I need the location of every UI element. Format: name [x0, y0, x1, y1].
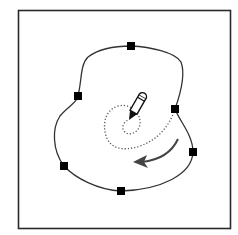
anchor-point-left-upper[interactable]	[74, 92, 82, 100]
anchor-point-top[interactable]	[127, 42, 135, 50]
diagram-frame	[19, 11, 231, 229]
anchor-point-right-lower[interactable]	[189, 148, 197, 156]
anchor-point-right-upper[interactable]	[171, 105, 179, 113]
anchor-point-bottom[interactable]	[117, 187, 125, 195]
anchor-point-left-lower[interactable]	[60, 162, 68, 170]
freeform-path-diagram	[0, 0, 238, 235]
